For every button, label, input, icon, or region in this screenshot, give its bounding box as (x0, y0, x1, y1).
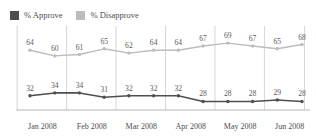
legend-swatch-square-icon (10, 11, 19, 20)
data-point (102, 47, 105, 50)
data-label: 61 (76, 43, 84, 52)
data-point (53, 91, 56, 94)
data-label: 60 (51, 44, 59, 53)
data-point (177, 49, 180, 52)
data-label: 32 (175, 84, 183, 93)
legend-swatch-square-icon (76, 11, 85, 20)
data-label: 32 (125, 84, 133, 93)
data-point (226, 100, 229, 103)
data-label: 64 (150, 38, 158, 47)
data-label: 64 (175, 38, 183, 47)
data-point (276, 98, 279, 101)
data-point (177, 94, 180, 97)
x-axis: Jan 2008Feb 2008Mar 2008Apr 2008May 2008… (0, 120, 316, 140)
data-label: 28 (199, 89, 207, 98)
x-axis-label-4: Apr 2008 (175, 122, 205, 132)
x-axis-label-1: Jan 2008 (28, 122, 57, 132)
data-label: 64 (26, 38, 34, 47)
data-point (251, 100, 254, 103)
data-point (102, 95, 105, 98)
data-label: 67 (199, 34, 207, 43)
x-axis-label-2: Feb 2008 (77, 122, 107, 132)
data-point (276, 47, 279, 50)
data-label: 28 (298, 89, 306, 98)
x-axis-label-6: Jun 2008 (275, 122, 304, 132)
data-point (201, 44, 204, 47)
data-label: 67 (249, 34, 257, 43)
approval-trend-chart: % Approve % Disapprove 64606165626464676… (0, 0, 316, 140)
data-label: 34 (76, 81, 84, 90)
data-label: 32 (26, 84, 34, 93)
data-label: 62 (125, 41, 133, 50)
plot-area: 6460616562646467696765683234343132323228… (0, 26, 316, 118)
data-point (201, 100, 204, 103)
data-label: 32 (150, 84, 158, 93)
data-point (251, 44, 254, 47)
legend-item-disapprove: % Disapprove (76, 11, 138, 20)
data-label: 65 (100, 37, 108, 46)
data-label: 34 (51, 81, 59, 90)
data-label: 31 (100, 85, 108, 94)
data-point (152, 94, 155, 97)
data-label: 29 (273, 88, 281, 97)
data-label: 28 (249, 89, 257, 98)
data-point (226, 41, 229, 44)
data-label: 69 (224, 31, 232, 40)
legend-item-approve: % Approve (10, 11, 62, 20)
legend-label-approve: % Approve (24, 11, 62, 20)
data-point (78, 53, 81, 56)
data-point (300, 43, 303, 46)
data-point (78, 91, 81, 94)
chart-legend: % Approve % Disapprove (10, 8, 139, 22)
data-label: 68 (298, 33, 306, 42)
data-point (53, 54, 56, 57)
data-point (152, 49, 155, 52)
x-axis-label-3: Mar 2008 (126, 122, 157, 132)
plot-svg: 6460616562646467696765683234343132323228… (0, 26, 316, 118)
data-label: 28 (224, 89, 232, 98)
legend-label-disapprove: % Disapprove (90, 11, 138, 20)
data-point (28, 94, 31, 97)
data-point (127, 51, 130, 54)
x-axis-label-5: May 2008 (224, 122, 257, 132)
data-point (300, 100, 303, 103)
data-point (28, 49, 31, 52)
data-label: 65 (273, 37, 281, 46)
data-point (127, 94, 130, 97)
